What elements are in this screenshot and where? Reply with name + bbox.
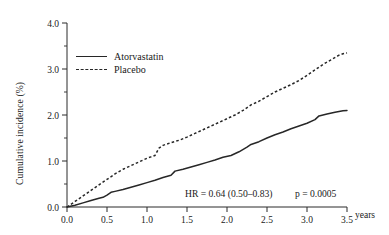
y-axis-title: Cumulative incidence (%) xyxy=(14,82,25,185)
y-tick-label: 4.0 xyxy=(47,19,59,29)
x-tick-label: 1.5 xyxy=(181,215,193,225)
x-axis-ticks xyxy=(67,207,347,212)
x-tick-label: 0.5 xyxy=(101,215,113,225)
hazard-ratio-annotation: HR = 0.64 (0.50–0.83) xyxy=(185,188,273,199)
series-line-placebo xyxy=(67,53,347,207)
chart-legend: Atorvastatin Placebo xyxy=(76,50,163,76)
y-axis-ticks xyxy=(62,23,67,207)
x-tick-label: 0.0 xyxy=(61,215,73,225)
p-value-annotation: p = 0.0005 xyxy=(295,188,336,199)
x-axis-tick-labels: 0.00.51.01.52.02.53.03.5 xyxy=(61,215,353,225)
y-tick-label: 3.0 xyxy=(47,65,59,75)
legend-item-placebo: Placebo xyxy=(76,63,163,76)
legend-label-atorvastatin: Atorvastatin xyxy=(114,50,163,63)
data-series-group xyxy=(67,53,347,207)
x-tick-label: 1.0 xyxy=(141,215,153,225)
legend-line-solid-icon xyxy=(76,52,107,62)
x-axis-unit-label: years xyxy=(355,210,375,220)
legend-label-placebo: Placebo xyxy=(114,63,146,76)
y-tick-label: 2.0 xyxy=(47,111,59,121)
x-tick-label: 2.5 xyxy=(261,215,273,225)
x-tick-label: 2.0 xyxy=(221,215,233,225)
y-tick-label: 0.0 xyxy=(47,203,59,213)
legend-line-dashed-icon xyxy=(76,65,107,75)
legend-item-atorvastatin: Atorvastatin xyxy=(76,50,163,63)
x-tick-label: 3.0 xyxy=(301,215,313,225)
y-axis-tick-labels: 0.01.02.03.04.0 xyxy=(47,19,59,213)
x-tick-label: 3.5 xyxy=(341,215,353,225)
survival-curve-figure: 0.00.51.01.52.02.53.03.5 0.01.02.03.04.0… xyxy=(0,0,389,235)
y-tick-label: 1.0 xyxy=(47,157,59,167)
chart-canvas: 0.00.51.01.52.02.53.03.5 0.01.02.03.04.0 xyxy=(0,0,389,235)
